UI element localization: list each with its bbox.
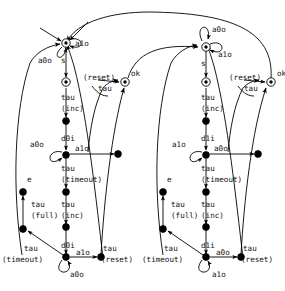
right-top-selfloop-a0o	[200, 27, 209, 41]
left-node-timeout-mid	[63, 189, 70, 196]
label-right-tau1: tau	[201, 93, 215, 102]
left-node-inc1	[63, 118, 70, 125]
label-left-timeout2: (timeout)	[61, 175, 102, 184]
left-node-a1o-mid	[115, 151, 122, 158]
left-mid-selfloop-a0o	[50, 152, 62, 162]
label-right-reset-r: (reset)	[241, 255, 273, 264]
label-right-selfloop-a0o: a0o	[212, 25, 226, 34]
label-left-selfloop-mid: a0o	[30, 140, 44, 149]
label-right-selfloop-a1o: a1o	[218, 50, 232, 59]
label-right-selfloop-mid: a1o	[172, 140, 186, 149]
right-bottom-selfloop-a1o	[199, 260, 210, 272]
state-transition-graph: a1o a0o s tau (inc) d0i a0o a1o tau (tim…	[0, 0, 285, 291]
diagram-canvas: a1o a0o s tau (inc) d0i a0o a1o tau (tim…	[0, 0, 285, 291]
label-left-selfloop-a0o: a0o	[38, 56, 52, 65]
label-right-tau-reset: tau	[243, 244, 257, 253]
label-left-d0i-2: d0i	[61, 241, 75, 250]
label-right-tau-timeout-b: tau	[164, 244, 178, 253]
edge-right-bottom-to-ok	[241, 88, 266, 255]
label-left-selfloop-a1o: a1o	[75, 39, 89, 48]
right-node-e-upper	[160, 189, 167, 196]
label-left-ok-tau: tau	[98, 84, 112, 93]
label-left-tau-full: tau	[31, 200, 45, 209]
label-right-e: e	[167, 175, 172, 184]
label-left-inc1: (inc)	[61, 104, 84, 113]
right-node-inc2	[203, 224, 210, 231]
label-right-tau2: tau	[201, 164, 215, 173]
label-left-tau-inc2: tau	[61, 200, 75, 209]
label-right-inc2: (inc)	[201, 211, 224, 220]
label-left-tau1: tau	[61, 93, 75, 102]
label-left-tau2: tau	[61, 164, 75, 173]
label-right-full: (full)	[171, 211, 198, 220]
label-left-a1o-bot: a1o	[76, 248, 90, 257]
right-node-e-lower	[160, 226, 167, 233]
label-right-ok-reset: (reset)	[229, 73, 261, 82]
right-node-timeout-mid	[203, 189, 210, 196]
label-right-timeout-b: (timeout)	[142, 255, 183, 264]
label-right-a0o-bot: a0o	[216, 248, 230, 257]
left-node-s	[62, 78, 70, 86]
label-right-a0o-mid: a0o	[214, 144, 228, 153]
right-node-s	[202, 78, 210, 86]
label-left-start: s	[61, 56, 66, 65]
left-node-e-upper	[20, 189, 27, 196]
left-node-top	[62, 39, 70, 47]
label-left-selfloop-bot: a0o	[70, 270, 84, 279]
label-left-ok: ok	[131, 69, 141, 78]
left-node-e-lower	[20, 226, 27, 233]
label-right-start: s	[201, 59, 206, 68]
label-left-inc2: (inc)	[61, 211, 84, 220]
right-mid-selfloop-a1o	[190, 152, 202, 162]
label-right-tau-inc2: tau	[201, 200, 215, 209]
label-right-ok-tau: tau	[244, 84, 258, 93]
label-left-reset-r: (reset)	[101, 255, 133, 264]
left-node-ok	[121, 78, 129, 86]
label-left-ok-reset: (reset)	[83, 73, 115, 82]
edge-left-col-return	[16, 44, 60, 255]
label-right-tau-full: tau	[171, 200, 185, 209]
label-left-full: (full)	[31, 211, 58, 220]
label-left-a1o-mid: a1o	[75, 144, 89, 153]
right-node-inc1	[203, 118, 210, 125]
right-node-top	[202, 43, 210, 51]
left-node-d0i-bot	[63, 254, 70, 261]
label-right-selfloop-bot: a1o	[212, 270, 226, 279]
label-left-timeout-b: (timeout)	[2, 255, 43, 264]
label-left-tau-reset: tau	[103, 244, 117, 253]
label-left-tau-timeout-b: tau	[24, 244, 38, 253]
left-node-inc2	[63, 224, 70, 231]
right-node-ok	[267, 78, 275, 86]
right-node-a0o-mid	[255, 151, 262, 158]
label-left-d0i-1: d0i	[61, 134, 75, 143]
left-bottom-selfloop-a0o	[59, 260, 70, 272]
left-node-d0i-mid	[63, 152, 70, 159]
label-left-e: e	[27, 175, 32, 184]
label-right-d1i-1: d1i	[201, 134, 215, 143]
edge-left-bottom-to-ok	[101, 88, 124, 255]
label-right-inc1: (inc)	[201, 104, 224, 113]
right-node-d1i-mid	[203, 152, 210, 159]
right-node-d1i-bot	[203, 254, 210, 261]
label-right-timeout2: (timeout)	[201, 175, 242, 184]
label-right-d1i-2: d1i	[201, 241, 215, 250]
label-right-ok: ok	[277, 69, 285, 78]
